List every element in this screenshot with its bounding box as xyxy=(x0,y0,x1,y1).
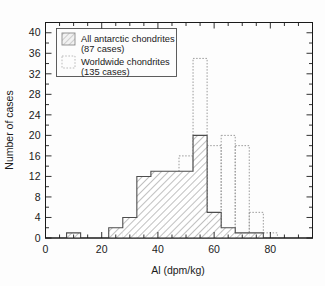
y-tick-label: 12 xyxy=(29,170,41,182)
chart-figure: 020406080 0481216202428323640 Al (dpm/kg… xyxy=(0,0,325,286)
y-tick-label: 8 xyxy=(35,191,41,203)
y-tick-label: 20 xyxy=(29,129,41,141)
x-axis-title: Al (dpm/kg) xyxy=(151,264,205,276)
x-tick-label: 20 xyxy=(96,243,108,255)
legend-sublabel-worldwide: (135 cases) xyxy=(81,67,130,77)
histogram-bar-antarctic-fill xyxy=(137,176,151,238)
histogram-chart: 020406080 0481216202428323640 Al (dpm/kg… xyxy=(0,0,325,286)
x-tick-label: 40 xyxy=(152,243,164,255)
y-tick-label: 0 xyxy=(35,232,41,244)
histogram-bar-antarctic-fill xyxy=(193,135,207,238)
legend-label-worldwide: Worldwide chondrites xyxy=(81,57,170,67)
legend-label-antarctic: All antarctic chondrites xyxy=(81,34,175,44)
histogram-bar-antarctic-fill xyxy=(165,171,179,238)
histogram-bar-antarctic-fill xyxy=(151,171,165,238)
y-tick-label: 32 xyxy=(29,68,41,80)
chart-legend: All antarctic chondrites (87 cases) Worl… xyxy=(57,29,177,78)
legend-sublabel-antarctic: (87 cases) xyxy=(81,44,124,54)
y-tick-label: 40 xyxy=(29,26,41,38)
y-tick-label: 24 xyxy=(29,109,41,121)
y-tick-label: 16 xyxy=(29,150,41,162)
y-tick-label: 28 xyxy=(29,88,41,100)
y-axis-title: Number of cases xyxy=(3,90,15,169)
histogram-bar-antarctic-fill xyxy=(179,171,193,238)
y-tick-label: 4 xyxy=(35,211,41,223)
x-tick-label: 0 xyxy=(43,243,49,255)
x-tick-label: 80 xyxy=(264,243,276,255)
legend-swatch-antarctic-icon xyxy=(62,33,75,45)
y-tick-label: 36 xyxy=(29,47,41,59)
x-tick-label: 60 xyxy=(208,243,220,255)
legend-swatch-worldwide-icon xyxy=(62,56,75,68)
